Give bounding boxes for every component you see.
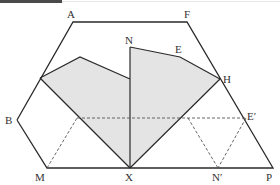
label-E-prime: E′: [247, 110, 256, 122]
label-N-prime: N′: [212, 171, 222, 183]
dashed-to-N-prime-left: [188, 118, 218, 168]
dashed-E-prime-N-prime: [218, 118, 246, 168]
geometry-diagram: A F E N H B E′ M X N′ P: [0, 0, 280, 185]
label-B: B: [5, 114, 12, 126]
label-M: M: [35, 171, 45, 183]
label-N: N: [125, 34, 133, 46]
label-E: E: [175, 43, 182, 55]
label-P: P: [266, 171, 272, 183]
label-F: F: [184, 8, 190, 20]
label-H: H: [223, 73, 231, 85]
label-X: X: [125, 171, 133, 183]
dashed-M-left: [47, 118, 77, 168]
label-A: A: [67, 8, 75, 20]
